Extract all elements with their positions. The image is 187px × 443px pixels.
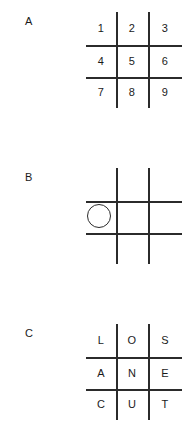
- panel-b-label: B: [25, 172, 33, 183]
- grid-cell[interactable]: N: [116, 357, 148, 389]
- grid-cell[interactable]: [116, 168, 148, 201]
- grid-cell[interactable]: A: [86, 357, 116, 389]
- grid-cell[interactable]: 4: [86, 45, 116, 77]
- grid-cell[interactable]: [86, 233, 116, 264]
- grid-cell[interactable]: 3: [148, 12, 182, 45]
- panel-c-grid: L O S A N E C U T: [86, 324, 182, 420]
- grid-cell[interactable]: U: [116, 389, 148, 420]
- grid-cell[interactable]: 9: [148, 77, 182, 108]
- grid-cell[interactable]: 1: [86, 12, 116, 45]
- grid-cell[interactable]: S: [148, 324, 182, 357]
- panel-a-label: A: [25, 16, 33, 27]
- grid-cell[interactable]: 7: [86, 77, 116, 108]
- panel-c-label: C: [25, 328, 33, 339]
- grid-cell[interactable]: [148, 168, 182, 201]
- grid-cell[interactable]: [116, 201, 148, 233]
- panel-a-cells: 1 2 3 4 5 6 7 8 9: [86, 12, 182, 108]
- panel-c: C L O S A N E C U T: [0, 305, 187, 443]
- panel-a-grid: 1 2 3 4 5 6 7 8 9: [86, 12, 182, 108]
- grid-cell[interactable]: L: [86, 324, 116, 357]
- panel-b: B: [0, 150, 187, 305]
- grid-cell[interactable]: [148, 201, 182, 233]
- panel-b-cells: [86, 168, 182, 264]
- panel-a: A 1 2 3 4 5 6 7 8 9: [0, 0, 187, 150]
- grid-cell[interactable]: [86, 201, 116, 233]
- grid-cell[interactable]: C: [86, 389, 116, 420]
- grid-cell[interactable]: [116, 233, 148, 264]
- grid-cell[interactable]: [86, 168, 116, 201]
- grid-cell[interactable]: E: [148, 357, 182, 389]
- grid-cell[interactable]: [148, 233, 182, 264]
- panel-b-grid: [86, 168, 182, 264]
- figure-panels-abc: A 1 2 3 4 5 6 7 8 9 B: [0, 0, 187, 443]
- grid-cell[interactable]: 8: [116, 77, 148, 108]
- grid-cell[interactable]: O: [116, 324, 148, 357]
- grid-cell[interactable]: 6: [148, 45, 182, 77]
- panel-c-cells: L O S A N E C U T: [86, 324, 182, 420]
- grid-cell[interactable]: T: [148, 389, 182, 420]
- grid-cell[interactable]: 5: [116, 45, 148, 77]
- grid-cell[interactable]: 2: [116, 12, 148, 45]
